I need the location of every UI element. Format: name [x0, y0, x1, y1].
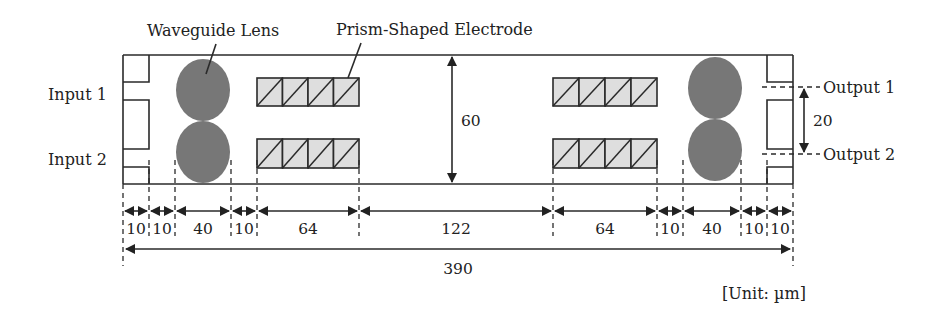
waveguide-lens-label: Waveguide Lens — [147, 21, 279, 40]
total-width-label: 390 — [443, 260, 473, 278]
segment-label: 10 — [770, 220, 790, 238]
prism-electrode-label: Prism-Shaped Electrode — [336, 20, 533, 39]
dimension-guides — [123, 160, 793, 266]
input-ports — [123, 55, 149, 184]
waveguide-lens-left — [176, 59, 230, 183]
input-1-label: Input 1 — [48, 85, 107, 104]
segment-label: 64 — [595, 220, 615, 238]
segment-label: 10 — [744, 220, 764, 238]
prism-electrodes — [257, 78, 657, 168]
height-dimension-label: 60 — [461, 112, 481, 130]
segment-label: 122 — [441, 220, 471, 238]
output-2-label: Output 2 — [823, 145, 895, 164]
optical-switch-diagram: Waveguide Lens Prism-Shaped Electrode In… — [0, 0, 945, 316]
output-1-label: Output 1 — [823, 78, 895, 97]
segment-label: 10 — [152, 220, 172, 238]
unit-label: [Unit: µm] — [722, 284, 806, 303]
output-ports — [767, 55, 793, 184]
waveguide-lens-right — [688, 57, 742, 181]
electrode-leader — [348, 43, 361, 78]
segment-label: 40 — [702, 220, 722, 238]
segment-dimensions: 10104010641226410401010 — [125, 211, 791, 238]
segment-label: 64 — [298, 220, 318, 238]
segment-label: 40 — [193, 220, 213, 238]
output-separation-label: 20 — [813, 112, 833, 130]
segment-label: 10 — [660, 220, 680, 238]
input-2-label: Input 2 — [48, 150, 107, 169]
segment-label: 10 — [126, 220, 146, 238]
segment-label: 10 — [234, 220, 254, 238]
